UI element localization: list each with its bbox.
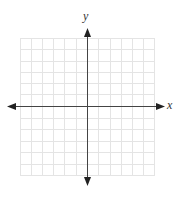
x-axis — [7, 103, 165, 110]
y-axis-label: y — [83, 10, 88, 22]
x-axis-label: x — [167, 99, 172, 111]
coordinate-plane — [0, 0, 184, 200]
